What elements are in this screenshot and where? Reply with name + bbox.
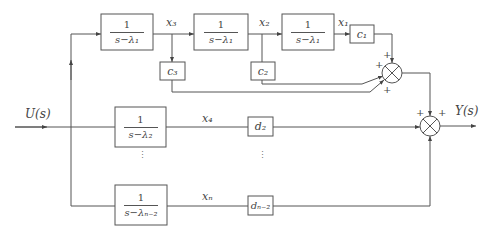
ellipsis-gains: ⋮	[258, 152, 264, 158]
signal-x4-label: x₄	[202, 113, 213, 124]
block-1-over-s-minus-lambda1-b: 1 s−λ₁	[194, 14, 248, 50]
signal-x1-label: x₁	[338, 17, 349, 28]
ellipsis-blocks: ⋮	[138, 152, 144, 158]
block-denominator: s−λ₂	[129, 128, 153, 140]
block-1-over-s-minus-lambda-n-2: 1 s−λₙ₋₂	[115, 185, 167, 225]
block-denominator: s−λₙ₋₂	[124, 206, 157, 218]
sum1-sign-bottom: +	[383, 85, 391, 95]
sum2-sign-left: +	[416, 108, 424, 118]
gain-c2: c₂	[251, 62, 275, 80]
block-numerator: 1	[137, 115, 143, 127]
block-1-over-s-minus-lambda2: 1 s−λ₂	[115, 107, 166, 147]
block-denominator: s−λ₁	[115, 33, 139, 45]
block-1-over-s-minus-lambda1-c: 1 s−λ₁	[282, 14, 334, 50]
gain-c1: c₁	[350, 25, 374, 43]
block-denominator: s−λ₁	[209, 33, 233, 45]
sum1-sign-left: +	[375, 60, 383, 70]
block-denominator: s−λ₁	[296, 33, 320, 45]
gain-c3: c₃	[160, 62, 185, 80]
block-numerator: 1	[305, 20, 311, 32]
sum2-sign-right: +	[438, 108, 446, 118]
sum1-sign-top: +	[383, 50, 391, 60]
block-1-over-s-minus-lambda1-a: 1 s−λ₁	[101, 14, 153, 50]
block-numerator: 1	[124, 20, 130, 32]
output-label: Y(s)	[455, 105, 478, 117]
block-numerator: 1	[138, 193, 144, 205]
input-label: U(s)	[25, 108, 51, 120]
gain-d2: d₂	[248, 117, 273, 136]
gain-d-n-2: dₙ₋₂	[248, 196, 273, 215]
signal-xn-label: xₙ	[202, 191, 213, 202]
signal-x2-label: x₂	[259, 17, 270, 28]
signal-x3-label: x₃	[166, 17, 177, 28]
block-numerator: 1	[218, 20, 224, 32]
